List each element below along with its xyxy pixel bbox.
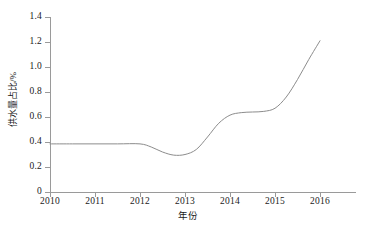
- y-axis-label: 供水量占比/%: [9, 54, 18, 146]
- x-tick-label: 2016: [310, 196, 330, 206]
- y-tick-label: 0.4: [30, 137, 42, 147]
- x-tick-label: 2013: [175, 196, 195, 206]
- y-tick-label: 1.0: [30, 62, 42, 72]
- y-tick-label-wrap: 0.8: [0, 87, 42, 97]
- y-tick-mark: [45, 167, 50, 168]
- y-tick-label-wrap: 1.4: [0, 12, 42, 22]
- line-series-supply-ratio: [50, 41, 320, 156]
- y-tick-mark: [45, 67, 50, 68]
- y-tick-mark: [45, 117, 50, 118]
- chart-figure: 00.20.40.60.81.01.21.4 20102011201220132…: [0, 0, 375, 234]
- x-tick-label: 2012: [130, 196, 150, 206]
- x-tick-label: 2010: [40, 196, 60, 206]
- x-tick-label: 2011: [85, 196, 104, 206]
- y-tick-label-wrap: 1.2: [0, 37, 42, 47]
- y-tick-label: 1.2: [30, 37, 42, 47]
- y-tick-label: 0.8: [30, 87, 42, 97]
- y-tick-mark: [45, 17, 50, 18]
- x-tick-label: 2015: [265, 196, 285, 206]
- y-tick-mark: [45, 42, 50, 43]
- y-tick-label: 1.4: [30, 12, 42, 22]
- y-tick-label: 0.6: [30, 112, 42, 122]
- y-tick-label: 0.2: [30, 162, 42, 172]
- y-tick-mark: [45, 92, 50, 93]
- y-tick-label-wrap: 1.0: [0, 62, 42, 72]
- y-tick-mark: [45, 142, 50, 143]
- y-tick-label-wrap: 0.6: [0, 112, 42, 122]
- y-tick-label-wrap: 0.4: [0, 137, 42, 147]
- y-tick-label-wrap: 0: [0, 187, 42, 197]
- x-axis-label: 年份: [0, 211, 375, 221]
- y-tick-label-wrap: 0.2: [0, 162, 42, 172]
- y-axis-line: [50, 17, 51, 193]
- x-tick-label: 2014: [220, 196, 240, 206]
